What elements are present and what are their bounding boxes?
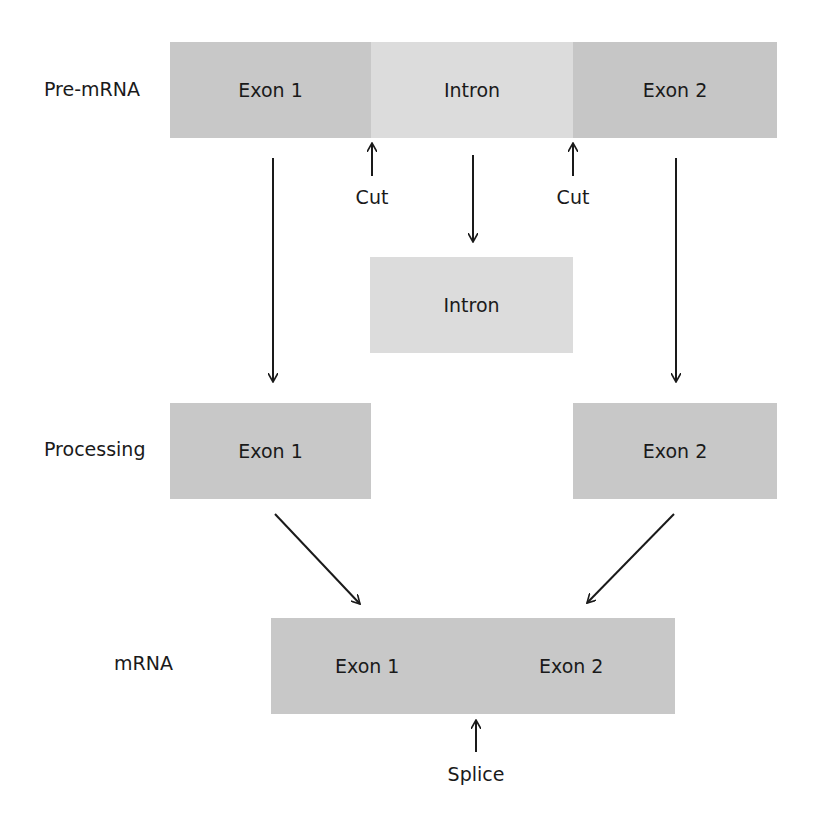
arrows-layer [0, 0, 815, 828]
exon2-join-arrow-icon [587, 514, 674, 603]
exon1-join-arrow-icon [275, 514, 360, 604]
